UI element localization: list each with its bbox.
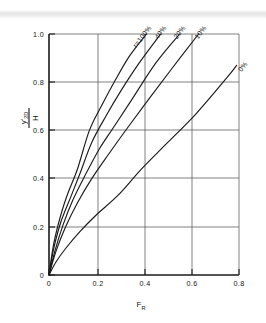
y-tick-label-0.4: 0.4	[33, 174, 44, 183]
y-axis-title-numerator: y'2D	[19, 112, 29, 125]
y-tick-label-0.6: 0.6	[33, 126, 44, 135]
x-tick-label-0.8: 0.8	[234, 279, 245, 288]
curve-10	[49, 34, 199, 275]
y-axis-title-numerator-sub: 2D	[23, 112, 29, 119]
plot-frame	[49, 34, 239, 275]
x-tick-labels: 0 0.2 0.4 0.6 0.8	[47, 279, 245, 288]
y-tick-label-0.2: 0.2	[33, 223, 44, 232]
data-curves	[49, 34, 237, 275]
curve-label-40: 40%	[153, 24, 168, 40]
y-tick-label-0: 0	[40, 271, 44, 280]
x-axis-title: FR	[137, 300, 146, 311]
x-axis-title-sub: R	[141, 305, 145, 311]
curve-label-20: 20%	[172, 24, 187, 40]
x-axis-title-text: FR	[137, 300, 146, 311]
x-tick-label-0.2: 0.2	[93, 279, 104, 288]
curve-40	[49, 34, 161, 275]
curve-label-0: 0%	[237, 60, 249, 73]
y-tick-label-1.0: 1.0	[33, 30, 44, 39]
curve-label-10: 10%	[193, 24, 208, 40]
y-tick-label-0.8: 0.8	[33, 78, 44, 87]
grid-lines	[49, 34, 239, 275]
x-tick-label-0.6: 0.6	[187, 279, 198, 288]
x-tick-label-0: 0	[47, 279, 51, 288]
chart-figure: 1.0 0.8 0.6 0.4 0.2 0 0 0.2 0.4 0.6 0.8 …	[0, 0, 266, 323]
y-axis-title-denominator: H	[31, 115, 40, 121]
curve-label-r-100: r=100%	[132, 24, 153, 48]
x-tick-label-0.4: 0.4	[140, 279, 151, 288]
chart-canvas: 1.0 0.8 0.6 0.4 0.2 0 0 0.2 0.4 0.6 0.8 …	[0, 0, 266, 323]
tick-marks	[49, 34, 239, 275]
y-tick-labels: 1.0 0.8 0.6 0.4 0.2 0	[33, 30, 44, 280]
curve-20	[49, 34, 180, 275]
y-axis-title: y'2D H	[19, 108, 40, 128]
